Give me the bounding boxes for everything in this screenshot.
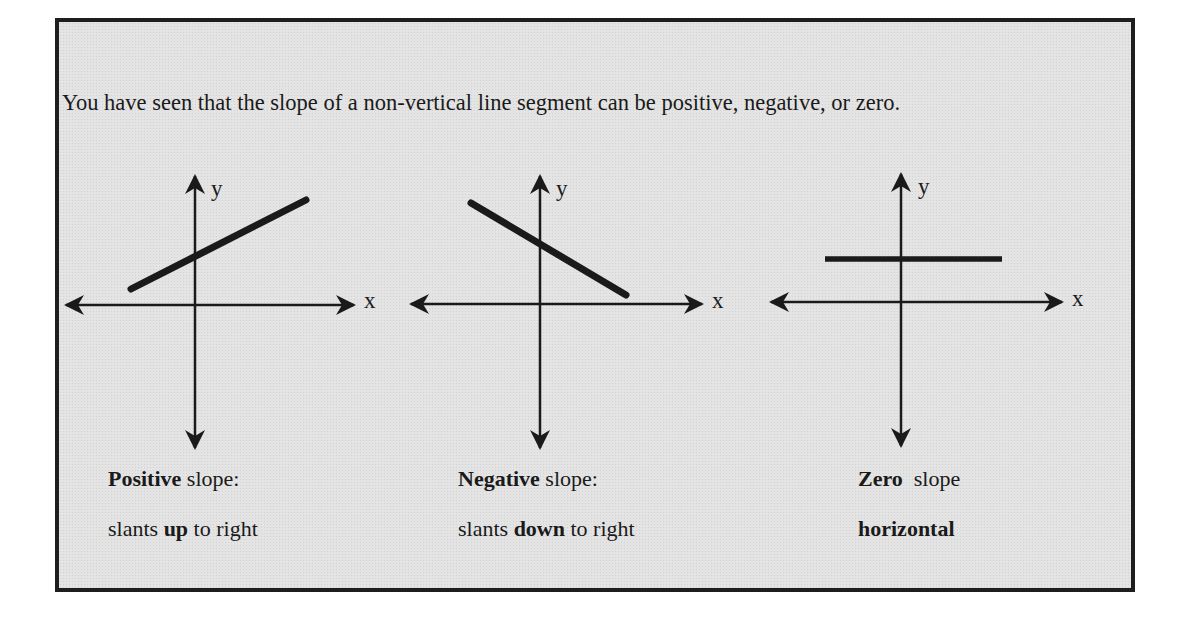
positive-slope-segment: [131, 200, 306, 289]
caption-text: slants: [108, 516, 164, 541]
caption-bold: horizontal: [858, 516, 955, 541]
caption-bold: Positive: [108, 466, 181, 491]
positive-caption-line2: slants up to right: [108, 516, 258, 542]
negative-slope-diagram: y x: [411, 176, 724, 448]
positive-caption-line1: Positive slope:: [108, 466, 239, 492]
caption-text: to right: [565, 516, 635, 541]
caption-text: slope:: [181, 466, 239, 491]
negative-caption-line1: Negative slope:: [458, 466, 598, 492]
caption-bold: Zero: [858, 466, 903, 491]
negative-caption-line2: slants down to right: [458, 516, 635, 542]
caption-text: to right: [188, 516, 258, 541]
caption-bold: Negative: [458, 466, 540, 491]
caption-text: slope:: [540, 466, 598, 491]
negative-slope-segment: [471, 203, 626, 295]
caption-text: slope: [903, 466, 960, 491]
caption-text: slants: [458, 516, 514, 541]
zero-caption-line2: horizontal: [858, 516, 955, 542]
x-axis-label: x: [712, 288, 724, 313]
x-axis-label: x: [1072, 286, 1084, 311]
caption-bold: up: [164, 516, 188, 541]
caption-bold: down: [514, 516, 565, 541]
zero-caption-line1: Zero slope: [858, 466, 960, 492]
positive-slope-diagram: y x: [66, 176, 376, 448]
y-axis-label: y: [556, 176, 568, 201]
y-axis-label: y: [211, 176, 223, 201]
x-axis-label: x: [364, 288, 376, 313]
zero-slope-diagram: y x: [771, 174, 1084, 446]
y-axis-label: y: [918, 174, 930, 199]
